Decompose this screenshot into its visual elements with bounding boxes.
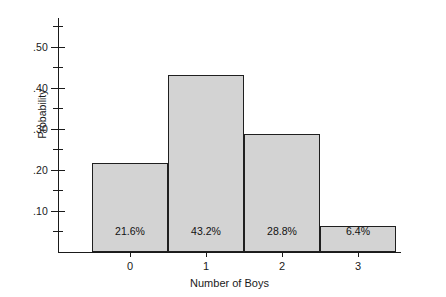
y-axis-line bbox=[58, 18, 59, 252]
y-tick-major-010 bbox=[51, 211, 65, 212]
x-axis-line bbox=[58, 252, 401, 253]
bar-value-label-0: 21.6% bbox=[90, 225, 170, 237]
y-tick-minor-025 bbox=[53, 149, 63, 150]
y-tick-minor-055 bbox=[53, 26, 63, 27]
y-tick-major-040 bbox=[51, 88, 65, 89]
y-tick-label-020: .20 bbox=[0, 165, 48, 176]
y-tick-major-050 bbox=[51, 47, 65, 48]
x-tick-2 bbox=[282, 252, 283, 257]
y-tick-label-050: .50 bbox=[0, 42, 48, 53]
histogram-figure: Probability .50 .40 .30 .20 .10 21.6% 43… bbox=[0, 0, 446, 297]
x-tick-label-0: 0 bbox=[110, 260, 150, 273]
y-tick-label-030: .30 bbox=[0, 124, 48, 135]
bar-category-0 bbox=[92, 163, 168, 252]
bar-value-label-1: 43.2% bbox=[166, 225, 246, 237]
bar-value-label-2: 28.8% bbox=[242, 225, 322, 237]
y-tick-minor-045 bbox=[53, 67, 63, 68]
bar-value-label-3: 6.4% bbox=[318, 225, 398, 237]
x-tick-0 bbox=[130, 252, 131, 257]
x-tick-label-2: 2 bbox=[262, 260, 302, 273]
x-axis-title: Number of Boys bbox=[58, 277, 401, 290]
y-tick-minor-015 bbox=[53, 190, 63, 191]
x-tick-label-3: 3 bbox=[338, 260, 378, 273]
y-tick-major-020 bbox=[51, 170, 65, 171]
y-tick-label-010: .10 bbox=[0, 206, 48, 217]
y-tick-major-030 bbox=[51, 129, 65, 130]
y-tick-label-040: .40 bbox=[0, 83, 48, 94]
x-tick-label-1: 1 bbox=[186, 260, 226, 273]
y-tick-minor-005 bbox=[53, 231, 63, 232]
x-tick-3 bbox=[358, 252, 359, 257]
y-tick-minor-035 bbox=[53, 108, 63, 109]
x-tick-1 bbox=[206, 252, 207, 257]
